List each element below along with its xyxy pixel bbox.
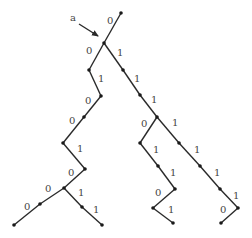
- tree-node: [156, 164, 160, 168]
- tree-node: [100, 223, 104, 227]
- edge-label: 1: [93, 204, 99, 215]
- tree-node: [38, 202, 42, 206]
- tree-node: [138, 141, 142, 145]
- tree-node: [155, 115, 159, 119]
- edge-label: 1: [172, 117, 178, 128]
- tree-node: [121, 68, 125, 72]
- edge-label: 0: [155, 187, 161, 198]
- edge-label: 1: [78, 187, 84, 198]
- edge-label: 1: [153, 144, 159, 155]
- tree-node: [119, 11, 123, 15]
- edge-label: 0: [69, 115, 75, 126]
- edge-label: 0: [24, 201, 30, 212]
- edge-label: 1: [151, 94, 157, 105]
- tree-node: [236, 206, 240, 210]
- tree-node: [151, 206, 155, 210]
- edge-label: 0: [220, 204, 226, 215]
- tree-node: [82, 115, 86, 119]
- edge-label: 1: [214, 167, 220, 178]
- tree-node: [99, 94, 103, 98]
- edge-label: 0: [107, 15, 113, 26]
- tree-node: [12, 223, 16, 227]
- edge-label: 0: [68, 167, 74, 178]
- tree-node: [83, 167, 87, 171]
- tree-node: [171, 221, 175, 225]
- edge-labels: 001001000111110110111110: [24, 15, 239, 215]
- tree-node: [198, 164, 202, 168]
- tree-node: [173, 187, 177, 191]
- edge-label: 1: [170, 167, 176, 178]
- tree-node: [62, 186, 66, 190]
- tree-node: [102, 41, 106, 45]
- tree-node: [218, 187, 222, 191]
- edge-label: 1: [168, 204, 174, 215]
- tree-edge: [40, 188, 64, 204]
- tree-nodes: [12, 11, 240, 227]
- edge-label: 1: [77, 143, 83, 154]
- edge-label: 1: [117, 47, 123, 58]
- tree-node: [219, 221, 223, 225]
- pointer-annotation: a: [70, 12, 98, 36]
- edge-label: 0: [86, 45, 92, 56]
- edge-label: 0: [45, 183, 51, 194]
- edge-label: 0: [141, 118, 147, 129]
- binary-tree-diagram: 001001000111110110111110 a: [0, 0, 252, 238]
- tree-node: [177, 141, 181, 145]
- edge-label: 1: [98, 73, 104, 84]
- pointer-arrow-icon: [79, 24, 98, 36]
- tree-node: [61, 141, 65, 145]
- edge-label: 1: [134, 73, 140, 84]
- tree-node: [87, 68, 91, 72]
- edge-label: 0: [85, 95, 91, 106]
- edge-label: 1: [233, 190, 239, 201]
- pointer-label: a: [70, 12, 76, 23]
- edge-label: 1: [194, 144, 200, 155]
- tree-node: [80, 205, 84, 209]
- tree-node: [138, 93, 142, 97]
